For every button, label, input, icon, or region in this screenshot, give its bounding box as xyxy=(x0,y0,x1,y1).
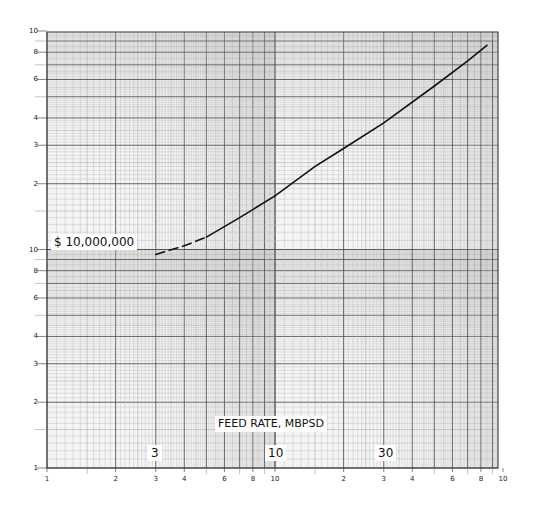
svg-text:10: 10 xyxy=(271,475,280,483)
svg-text:8: 8 xyxy=(479,475,483,483)
reference-value-label: $ 10,000,000 xyxy=(51,234,137,250)
svg-text:2: 2 xyxy=(113,475,117,483)
svg-text:10: 10 xyxy=(29,27,38,35)
svg-text:10: 10 xyxy=(499,475,508,483)
svg-text:8: 8 xyxy=(251,475,255,483)
svg-text:1: 1 xyxy=(45,475,49,483)
svg-text:2: 2 xyxy=(341,475,345,483)
svg-text:3: 3 xyxy=(154,475,158,483)
x-axis-title: FEED RATE, MBPSD xyxy=(215,416,327,432)
x-callout-3: 3 xyxy=(148,445,162,461)
svg-text:10: 10 xyxy=(29,246,38,254)
x-callout-10: 10 xyxy=(265,445,286,461)
svg-text:6: 6 xyxy=(450,475,455,483)
x-callout-30: 30 xyxy=(375,445,396,461)
grid xyxy=(47,32,498,468)
svg-text:6: 6 xyxy=(222,475,227,483)
svg-text:4: 4 xyxy=(182,475,187,483)
svg-text:4: 4 xyxy=(410,475,415,483)
svg-text:3: 3 xyxy=(382,475,386,483)
